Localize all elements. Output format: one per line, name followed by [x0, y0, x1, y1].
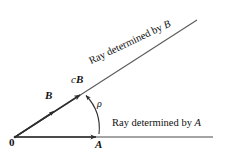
vector-cb-basis: B — [76, 73, 83, 85]
angle-rho-label: ρ — [97, 99, 102, 109]
point-a-label: A — [95, 139, 102, 150]
origin-label: 0 — [9, 137, 15, 148]
diagram-canvas — [0, 0, 226, 152]
vector-cb-label: cB — [71, 74, 83, 85]
ray-a-annotation: Ray determined by A — [112, 118, 201, 129]
ray-a-annotation-text: Ray determined by — [112, 117, 195, 128]
ray-a-annotation-var: A — [195, 117, 201, 128]
vector-b-label: B — [45, 90, 52, 101]
vector-cb-arrow — [16, 95, 80, 136]
vector-ray-diagram: 0 A B cB ρ Ray determined by A Ray deter… — [0, 0, 226, 152]
